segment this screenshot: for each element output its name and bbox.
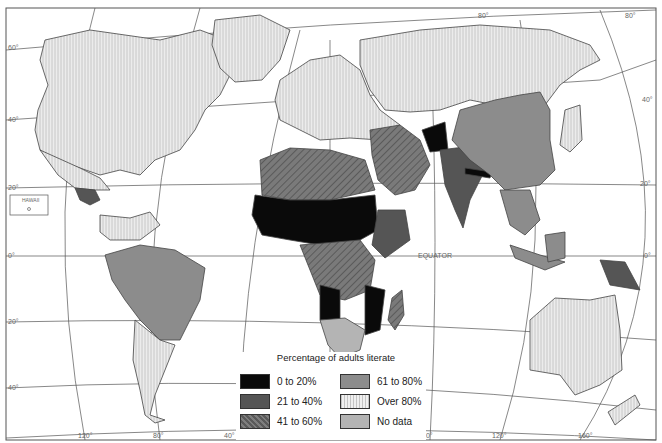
lon-label: 80°	[153, 432, 164, 439]
lon-label: 160°	[578, 432, 593, 439]
legend-label: No data	[377, 416, 412, 427]
lat-label: 20°	[8, 184, 19, 191]
legend-label: 61 to 80%	[377, 376, 422, 387]
region-angola	[320, 285, 340, 320]
hawaii-label: HAWAII	[22, 197, 39, 203]
legend-item: 61 to 80%	[340, 374, 422, 389]
lat-label: 60°	[8, 44, 19, 51]
legend-label: 41 to 60%	[277, 416, 322, 427]
legend-item: No data	[340, 414, 412, 429]
lat-label: 40°	[8, 116, 19, 123]
legend-label: 0 to 20%	[277, 376, 316, 387]
lat-label: 20°	[640, 180, 651, 187]
lat-label: 0°	[644, 252, 651, 259]
lon-label: 120°	[492, 432, 507, 439]
lat-label: 40°	[642, 96, 653, 103]
legend-swatch	[240, 374, 270, 389]
legend-item: 21 to 40%	[240, 394, 322, 409]
legend-swatch	[240, 394, 270, 409]
lat-label: 40°	[8, 384, 19, 391]
legend-item: Over 80%	[340, 394, 421, 409]
legend-label: 21 to 40%	[277, 396, 322, 407]
legend-swatch	[340, 394, 370, 409]
legend-swatch	[340, 414, 370, 429]
legend-title: Percentage of adults literate	[236, 352, 436, 363]
lon-label: 120°	[78, 432, 93, 439]
legend-item: 0 to 20%	[240, 374, 316, 389]
lon-label: 80°	[625, 12, 636, 19]
legend: Percentage of adults literate 0 to 20% 2…	[236, 352, 426, 440]
legend-swatch	[340, 374, 370, 389]
lon-label: 40°	[224, 432, 235, 439]
region-borneo	[545, 232, 565, 262]
equator-label: EQUATOR	[418, 252, 452, 260]
legend-label: Over 80%	[377, 396, 421, 407]
lon-label: 80°	[478, 12, 489, 19]
lat-label: 0°	[8, 252, 15, 259]
legend-item: 41 to 60%	[240, 414, 322, 429]
legend-swatch	[240, 414, 270, 429]
lat-label: 20°	[8, 318, 19, 325]
